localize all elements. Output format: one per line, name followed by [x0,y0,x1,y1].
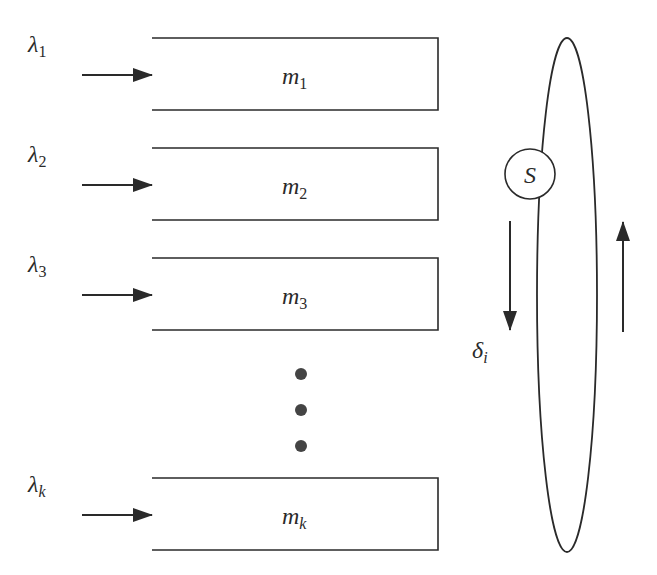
ellipsis-dot [295,368,307,380]
ellipsis-dot [295,440,307,452]
server-node: S [505,149,555,199]
buffer-label-1: m1 [282,63,307,92]
ellipsis-dots [295,368,307,452]
server-label: S [524,162,536,188]
polling-system-diagram: λ1 m1 λ2 m2 λ3 m3 λ [0,0,657,575]
queue-3: λ3 m3 [27,251,438,330]
buffer-label-3: m3 [282,283,307,312]
arrival-rate-label-1: λ1 [27,31,46,60]
arrival-rate-label-k: λk [27,471,46,500]
switchover-label: δi [472,337,488,366]
queue-1: λ1 m1 [27,31,438,110]
queue-k: λk mk [27,471,438,550]
arrival-rate-label-3: λ3 [27,251,46,280]
arrival-rate-label-2: λ2 [27,141,46,170]
ellipsis-dot [295,404,307,416]
server-cycle-ellipse [537,38,597,552]
buffer-label-k: mk [282,503,307,532]
queue-2: λ2 m2 [27,141,438,220]
buffer-label-2: m2 [282,173,307,202]
